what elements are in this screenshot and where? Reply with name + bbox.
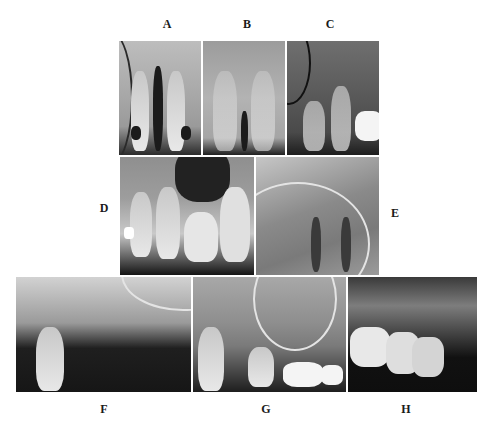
radiograph-panel-b (203, 41, 285, 155)
panel-label-g: G (261, 402, 270, 417)
panel-label-a: A (163, 17, 172, 32)
panel-label-h: H (401, 402, 410, 417)
panel-label-e: E (391, 206, 399, 221)
radiograph-panel-g (193, 277, 346, 392)
panel-label-f: F (100, 402, 107, 417)
radiograph-panel-f (16, 277, 191, 392)
radiograph-panel-d (120, 157, 254, 275)
panel-label-b: B (243, 17, 251, 32)
radiograph-panel-a (119, 41, 201, 155)
panel-label-d: D (100, 201, 109, 216)
panel-label-c: C (326, 17, 335, 32)
radiograph-panel-e (256, 157, 379, 275)
radiograph-panel-c (287, 41, 379, 155)
radiograph-panel-h (348, 277, 477, 392)
